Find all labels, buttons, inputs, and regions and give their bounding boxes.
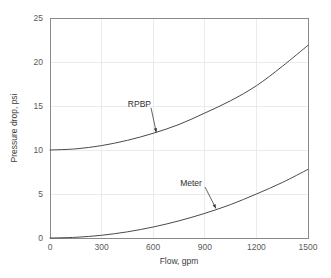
y-tick-label: 25 [34, 13, 44, 23]
chart-container: 030060090012001500 0510152025 Flow, gpm … [0, 0, 331, 278]
y-axis-title: Pressure drop, psi [9, 93, 19, 162]
annotation-label-rpbp: RPBP [128, 99, 151, 109]
x-tick-label: 300 [95, 242, 109, 252]
x-tick-label: 0 [48, 242, 53, 252]
x-tick-label: 1200 [247, 242, 266, 252]
y-tick-label: 0 [38, 233, 43, 243]
x-tick-label: 900 [198, 242, 212, 252]
x-tick-label: 1500 [299, 242, 318, 252]
pressure-drop-vs-flow-chart: 030060090012001500 0510152025 Flow, gpm … [0, 0, 331, 278]
x-tick-label: 600 [146, 242, 160, 252]
annotation-label-meter: Meter [180, 178, 202, 188]
y-tick-label: 15 [34, 101, 44, 111]
y-tick-label: 20 [34, 57, 44, 67]
y-tick-label: 5 [38, 189, 43, 199]
y-tick-label: 10 [34, 145, 44, 155]
x-axis-title: Flow, gpm [160, 256, 199, 266]
